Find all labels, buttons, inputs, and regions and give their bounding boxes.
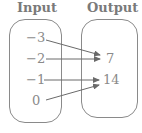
arrow-neg3-to-7: [46, 40, 100, 55]
mapping-arrows: [0, 0, 142, 133]
arrow-0-to-14: [46, 85, 99, 100]
